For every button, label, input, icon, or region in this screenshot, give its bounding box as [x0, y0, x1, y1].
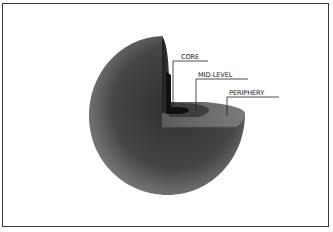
core-leader [173, 61, 208, 108]
label-periphery: PERIPHERY [229, 89, 265, 97]
label-core: CORE [181, 53, 199, 61]
layers-diagram: CORE MID-LEVEL PERIPHERY [0, 0, 333, 232]
label-mid-level: MID-LEVEL [198, 71, 233, 79]
